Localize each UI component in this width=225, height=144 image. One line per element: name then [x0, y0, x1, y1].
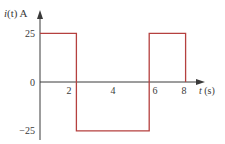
y-tick-label-neg25: −25: [19, 125, 35, 136]
y-label-arg: (t): [7, 7, 18, 20]
x-tick-label-4: 4: [111, 85, 116, 96]
y-label-unit: A: [17, 7, 27, 19]
y-axis-label: i(t) A: [4, 7, 28, 20]
x-axis-label: t (s): [199, 85, 215, 97]
x-tick-label-2: 2: [67, 85, 72, 96]
x-tick-label-8: 8: [182, 85, 187, 96]
x-label-unit: (s): [202, 85, 215, 97]
x-tick-label-6: 6: [153, 85, 158, 96]
y-axis-arrow-icon: [37, 10, 43, 19]
y-tick-label-25: 25: [25, 28, 35, 39]
current-waveform-chart: i(t) A 25 0 −25 2 4 6 8 t (s): [0, 0, 225, 144]
y-tick-label-0: 0: [30, 77, 35, 88]
